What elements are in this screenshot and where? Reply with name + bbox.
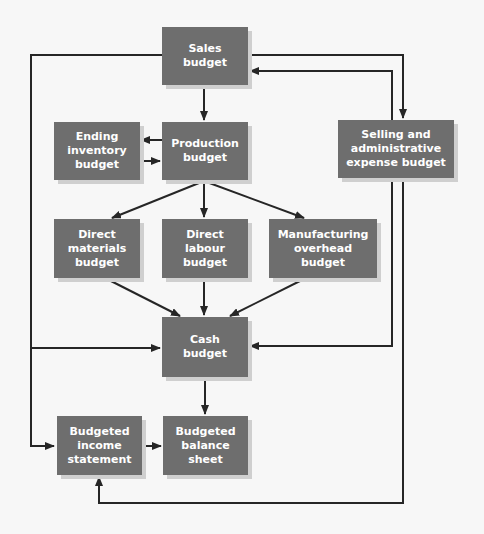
cash-budget-label: Cash budget <box>183 333 227 361</box>
cash-budget-node: Cash budget <box>162 317 248 377</box>
direct-materials-budget-label: Direct materials budget <box>68 228 127 270</box>
ending-inventory-budget-node: Ending inventory budget <box>54 122 140 180</box>
sales-budget-label: Sales budget <box>183 42 227 70</box>
selling-admin-expense-budget-node: Selling and administrative expense budge… <box>338 120 454 178</box>
direct-labour-budget-node: Direct labour budget <box>162 219 248 278</box>
selling-admin-expense-budget-label: Selling and administrative expense budge… <box>346 128 446 170</box>
manufacturing-overhead-budget-label: Manufacturing overhead budget <box>278 228 369 270</box>
direct-materials-budget-node: Direct materials budget <box>54 219 140 278</box>
budgeted-income-statement-label: Budgeted income statement <box>68 425 132 467</box>
production-budget-label: Production budget <box>171 137 239 165</box>
sales-budget-node: Sales budget <box>162 27 248 85</box>
direct-labour-budget-label: Direct labour budget <box>183 228 227 270</box>
budgeted-balance-sheet-label: Budgeted balance sheet <box>175 425 235 467</box>
ending-inventory-budget-label: Ending inventory budget <box>67 130 126 172</box>
production-budget-node: Production budget <box>162 122 248 180</box>
manufacturing-overhead-budget-node: Manufacturing overhead budget <box>269 219 377 278</box>
budgeted-balance-sheet-node: Budgeted balance sheet <box>163 416 248 475</box>
budgeted-income-statement-node: Budgeted income statement <box>57 416 142 475</box>
